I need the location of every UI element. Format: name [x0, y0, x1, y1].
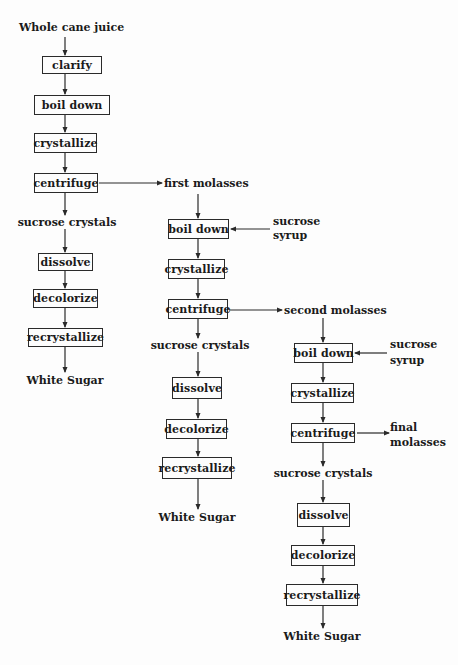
- c2-recrystallize-box: recrystallize: [162, 457, 232, 479]
- c1-crystallize-box: crystallize: [34, 133, 97, 153]
- c3-boil-down-box: boil down: [294, 343, 353, 363]
- c2-sucrose-syrup-label-2: syrup: [273, 229, 307, 242]
- c3-recrystallize-box: recrystallize: [286, 584, 358, 606]
- c1-recrystallize-box: recrystallize: [28, 328, 103, 347]
- c2-dissolve-box: dissolve: [172, 377, 222, 399]
- c2-white-sugar-label: White Sugar: [159, 511, 236, 524]
- c2-first-molasses-label: first molasses: [164, 177, 249, 190]
- c3-final-molasses-label-1: final: [390, 421, 417, 434]
- c1-sucrose-crystals-label: sucrose crystals: [18, 216, 117, 229]
- c3-sucrose-crystals-label: sucrose crystals: [274, 467, 373, 480]
- c2-boil-down-box: boil down: [168, 219, 229, 239]
- c2-crystallize-box: crystallize: [168, 259, 225, 279]
- c1-boil-down-box: boil down: [34, 95, 110, 115]
- c3-crystallize-box: crystallize: [291, 383, 354, 403]
- c3-white-sugar-label: White Sugar: [284, 630, 361, 643]
- start-label: Whole cane juice: [19, 21, 124, 34]
- c3-dissolve-box: dissolve: [297, 503, 350, 527]
- c1-white-sugar-label: White Sugar: [27, 374, 104, 387]
- c2-sucrose-crystals-label: sucrose crystals: [151, 339, 250, 352]
- c2-decolorize-box: decolorize: [166, 419, 227, 439]
- c1-clarify-box: clarify: [42, 56, 102, 74]
- c3-sucrose-syrup-label-2: syrup: [390, 354, 424, 367]
- c2-centrifuge-box: centrifuge: [168, 299, 228, 319]
- c1-decolorize-box: decolorize: [33, 289, 98, 308]
- c3-decolorize-box: decolorize: [291, 545, 355, 566]
- c2-sucrose-syrup-label-1: sucrose: [273, 215, 320, 228]
- c3-centrifuge-box: centrifuge: [291, 423, 355, 443]
- c3-second-molasses-label: second molasses: [284, 304, 387, 317]
- flowchart-canvas: Whole cane juice clarify boil down cryst…: [0, 0, 458, 665]
- c3-sucrose-syrup-label-1: sucrose: [390, 338, 437, 351]
- c1-centrifuge-box: centrifuge: [34, 173, 98, 193]
- c1-dissolve-box: dissolve: [38, 253, 93, 271]
- c3-final-molasses-label-2: molasses: [390, 436, 446, 449]
